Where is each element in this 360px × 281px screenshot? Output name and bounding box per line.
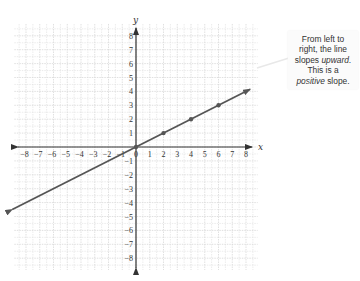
y-tick-label: −6 <box>124 226 133 235</box>
x-tick-label: 8 <box>244 150 248 159</box>
x-tick-label: −3 <box>89 150 98 159</box>
x-tick-label: 2 <box>162 150 166 159</box>
data-point <box>134 145 138 149</box>
callout-line-5: positive slope. <box>288 76 358 86</box>
x-tick-label: −8 <box>20 150 29 159</box>
y-tick-label: −3 <box>124 185 133 194</box>
callout-pointer <box>257 58 289 68</box>
callout-line-3: slopes upward. <box>288 55 358 65</box>
y-tick-label: 8 <box>129 32 133 41</box>
x-tick-label: −7 <box>34 150 43 159</box>
y-tick-label: 7 <box>129 46 133 55</box>
x-tick-label: −5 <box>61 150 70 159</box>
y-tick-label: 3 <box>129 101 133 110</box>
y-tick-label: 6 <box>129 60 133 69</box>
x-tick-label: 1 <box>148 150 152 159</box>
callout-line-4: This is a <box>288 65 358 75</box>
x-tick-label: 0 <box>134 150 138 159</box>
y-tick-label: 1 <box>129 129 133 138</box>
x-tick-label: 3 <box>175 150 179 159</box>
callout-line-2: right, the line <box>288 44 358 54</box>
data-point <box>189 117 193 121</box>
slope-callout: From left to right, the line slopes upwa… <box>288 31 358 89</box>
x-tick-label: 7 <box>230 150 234 159</box>
y-tick-label: 4 <box>129 87 133 96</box>
y-tick-label: −2 <box>124 171 133 180</box>
y-tick-label: −7 <box>124 240 133 249</box>
data-point <box>161 131 165 135</box>
x-tick-label: 5 <box>203 150 207 159</box>
x-tick-label: −4 <box>75 150 84 159</box>
y-tick-label: 5 <box>129 74 133 83</box>
x-tick-label: 6 <box>217 150 221 159</box>
x-axis-label: x <box>258 142 263 152</box>
y-tick-label: −8 <box>124 254 133 263</box>
x-tick-label: 4 <box>189 150 193 159</box>
y-axis-label: y <box>132 15 139 25</box>
y-tick-label: 2 <box>129 115 133 124</box>
callout-line-1: From left to <box>288 34 358 44</box>
y-tick-label: −1 <box>124 157 133 166</box>
y-tick-label: −5 <box>124 213 133 222</box>
x-tick-label: −2 <box>103 150 112 159</box>
y-tick-label: −4 <box>124 199 133 208</box>
x-tick-label: −6 <box>48 150 57 159</box>
data-point <box>216 103 220 107</box>
